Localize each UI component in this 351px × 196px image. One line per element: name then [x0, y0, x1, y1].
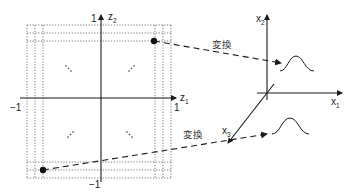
ellipsis-upper-right: [128, 65, 135, 72]
latent-grid: [27, 25, 172, 178]
z2-axis-label: z2: [108, 11, 117, 24]
tick-bottom: −1: [89, 179, 101, 190]
latent-to-data-diagram: z2 z1 1 −1 −1 1 変換 変換 x2 x1 x3: [0, 0, 351, 196]
x3-axis-label: x3: [222, 125, 231, 138]
transform-label-lower: 変換: [183, 129, 203, 140]
ellipsis-lower-right: [126, 131, 133, 138]
transform-arrow-lower: [43, 134, 267, 170]
ellipsis-upper-left: [65, 65, 72, 72]
z1-axis-label: z1: [180, 92, 189, 105]
tick-left: −1: [10, 102, 22, 113]
tick-right: 1: [174, 102, 180, 113]
gaussian-curve-upper: [280, 56, 314, 71]
gaussian-curve-lower: [272, 118, 309, 134]
x1-axis-label: x1: [331, 96, 340, 109]
tick-top: 1: [91, 13, 97, 24]
x2-axis-label: x2: [256, 13, 265, 26]
data-axes: [228, 15, 342, 143]
ellipsis-marks: [65, 65, 135, 138]
x3-axis: [228, 84, 274, 143]
transform-label-upper: 変換: [212, 39, 232, 50]
ellipsis-lower-left: [67, 131, 74, 138]
